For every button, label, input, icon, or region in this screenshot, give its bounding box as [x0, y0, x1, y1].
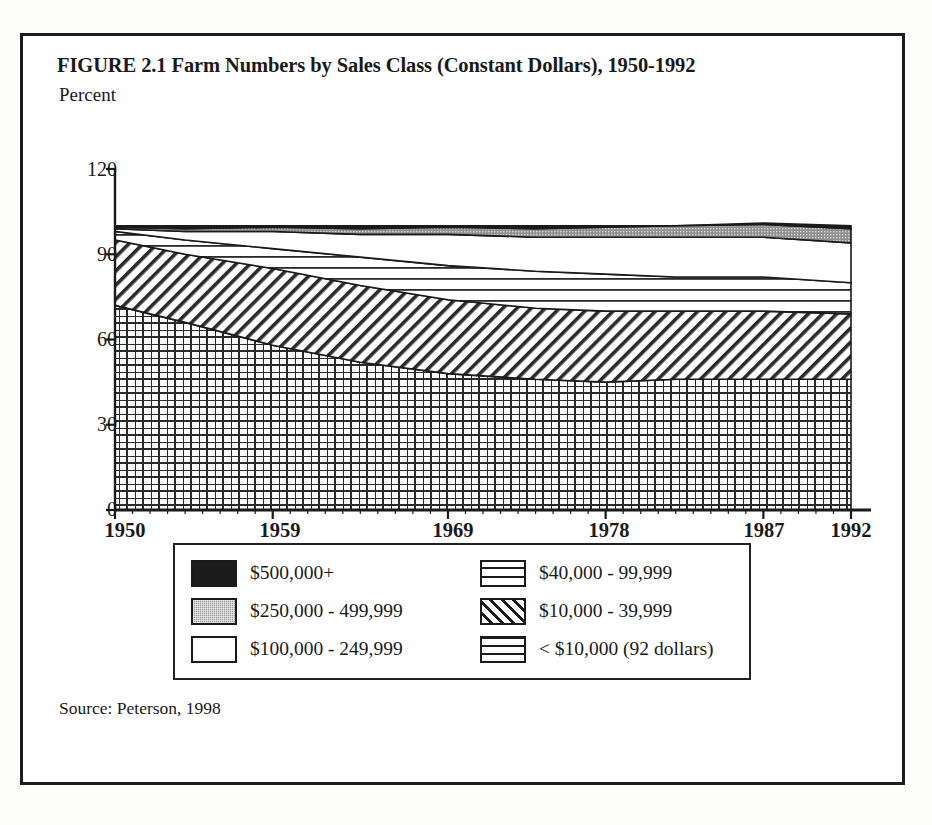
page-scan-artifact — [60, 2, 480, 12]
chart-legend: $500,000+ $250,000 - 499,999 $100,000 - … — [173, 543, 751, 680]
legend-swatch-grid — [480, 636, 526, 663]
legend-column-right: $40,000 - 99,999 $10,000 - 39,999 < $10,… — [480, 554, 714, 668]
stacked-area-chart — [23, 36, 908, 536]
x-tick-1959: 1959 — [235, 519, 325, 542]
legend-label: $250,000 - 499,999 — [250, 600, 403, 622]
x-tick-1987: 1987 — [719, 519, 809, 542]
legend-label: $100,000 - 249,999 — [250, 638, 403, 660]
legend-item-250000-499999[interactable]: $250,000 - 499,999 — [191, 592, 403, 630]
y-tick-90: 90 — [63, 243, 117, 266]
legend-label: $10,000 - 39,999 — [539, 600, 672, 622]
x-tick-1978: 1978 — [564, 519, 654, 542]
figure-frame: FIGURE 2.1 Farm Numbers by Sales Class (… — [20, 33, 905, 785]
legend-label: $500,000+ — [250, 562, 334, 584]
legend-item-10000-39999[interactable]: $10,000 - 39,999 — [480, 592, 714, 630]
legend-item-500000-plus[interactable]: $500,000+ — [191, 554, 403, 592]
x-tick-1992: 1992 — [806, 519, 896, 542]
legend-swatch-diagonal — [480, 598, 526, 625]
plot-area: 0 30 60 90 120 1950 1959 1969 1978 1987 … — [23, 36, 908, 536]
x-tick-1950: 1950 — [80, 519, 170, 542]
y-tick-0: 0 — [63, 498, 117, 521]
legend-swatch-horizontal-lines — [480, 560, 526, 587]
legend-column-left: $500,000+ $250,000 - 499,999 $100,000 - … — [191, 554, 403, 668]
legend-swatch-gray — [191, 598, 237, 625]
legend-item-under-10000[interactable]: < $10,000 (92 dollars) — [480, 630, 714, 668]
legend-label: < $10,000 (92 dollars) — [539, 638, 714, 660]
legend-swatch-blank — [191, 636, 237, 663]
y-tick-30: 30 — [63, 413, 117, 436]
legend-item-40000-99999[interactable]: $40,000 - 99,999 — [480, 554, 714, 592]
legend-label: $40,000 - 99,999 — [539, 562, 672, 584]
y-tick-60: 60 — [63, 328, 117, 351]
source-note: Source: Peterson, 1998 — [59, 698, 221, 719]
legend-item-100000-249999[interactable]: $100,000 - 249,999 — [191, 630, 403, 668]
legend-swatch-solid-black — [191, 560, 237, 587]
x-tick-1969: 1969 — [408, 519, 498, 542]
y-tick-120: 120 — [63, 158, 117, 181]
